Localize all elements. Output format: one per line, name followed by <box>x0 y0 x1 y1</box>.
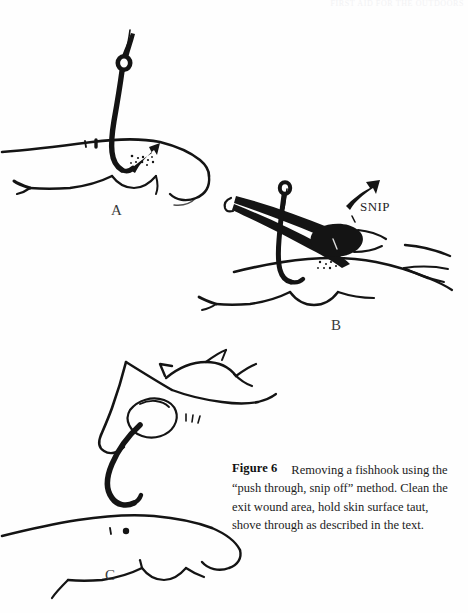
panel-a-drawing <box>2 30 209 205</box>
panel-b-drawing <box>199 180 452 310</box>
snip-annotation-label: SNIP <box>360 200 390 213</box>
panel-label-a: A <box>111 203 122 218</box>
panel-label-c: C <box>105 568 115 583</box>
figure-number-label: Figure 6 <box>232 460 277 476</box>
panel-label-b: B <box>331 318 341 333</box>
figure-page: FIRST AID FOR THE OUTDOORS <box>0 0 468 613</box>
figure-caption: Figure 6 Removing a fishhook using the “… <box>232 460 454 534</box>
